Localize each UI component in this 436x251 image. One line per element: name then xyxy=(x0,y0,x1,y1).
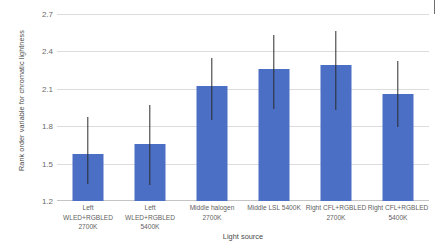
error-bar xyxy=(273,35,274,109)
error-bar xyxy=(87,117,88,183)
x-axis-tick-label: Middle LSL 5400K xyxy=(243,203,305,213)
y-axis-tick-labels: 1.21.51.82.12.42.7 xyxy=(25,14,53,201)
error-bar xyxy=(335,31,336,110)
error-bar xyxy=(211,58,212,120)
x-axis-tick-label: Left WLED+RGBLED 2700K xyxy=(57,203,119,232)
bar-group xyxy=(57,14,119,201)
y-axis-tick-label: 1.5 xyxy=(27,159,53,168)
bar-group xyxy=(181,14,243,201)
y-axis-tick-label: 2.1 xyxy=(27,84,53,93)
x-axis-tick-labels: Left WLED+RGBLED 2700KLeft WLED+RGBLED 5… xyxy=(57,203,429,233)
plot-area xyxy=(57,14,429,201)
error-bar xyxy=(397,61,398,127)
y-axis-tick-label: 1.2 xyxy=(27,197,53,206)
x-axis-tick-label: Right CFL+RGBLED 5400K xyxy=(367,203,429,222)
x-axis-title: Light source xyxy=(57,232,429,241)
bar-group xyxy=(119,14,181,201)
y-axis-tick-label: 2.7 xyxy=(27,10,53,19)
x-axis-tick-label: Right CFL+RGBLED 2700K xyxy=(305,203,367,222)
y-axis-tick-label: 2.4 xyxy=(27,47,53,56)
bar-group xyxy=(367,14,429,201)
bar-group xyxy=(243,14,305,201)
edge-mark-icon xyxy=(434,0,435,14)
y-axis-tick-label: 1.8 xyxy=(27,122,53,131)
x-axis-tick-label: Left WLED+RGBLED 5400K xyxy=(119,203,181,232)
bar-group xyxy=(305,14,367,201)
x-axis-tick-label: Middle halogen 2700K xyxy=(181,203,243,222)
chart-figure: Rank order variable for chromatic lightn… xyxy=(0,0,436,251)
error-bar xyxy=(149,105,150,185)
